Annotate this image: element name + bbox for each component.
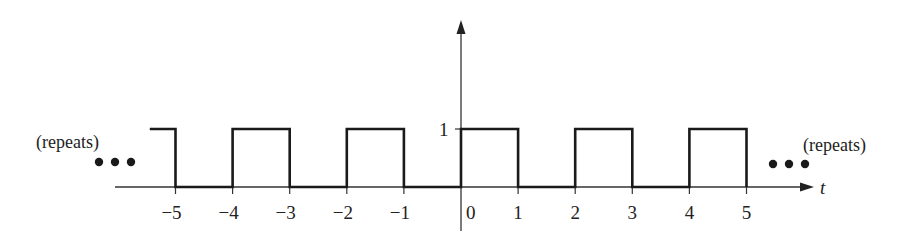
x-axis-label: t <box>820 177 826 198</box>
x-tick-label: −1 <box>390 202 410 223</box>
x-axis-tick-labels: −5−4−3−2−1012345 <box>161 202 751 223</box>
x-tick-label: 1 <box>513 202 523 223</box>
square-wave-figure: t 1 −5−4−3−2−1012345 (repeats) (repeats) <box>0 0 910 249</box>
ellipsis-dot-icon <box>127 158 135 166</box>
x-tick-label: −5 <box>161 202 181 223</box>
x-tick-label: −3 <box>276 202 296 223</box>
ellipsis-dot-icon <box>785 160 793 168</box>
ellipsis-dot-icon <box>95 158 103 166</box>
x-tick-label: −4 <box>218 202 239 223</box>
y-axis: 1 <box>439 20 466 231</box>
x-tick-label: −2 <box>333 202 353 223</box>
ellipsis-dot-icon <box>801 160 809 168</box>
left-repeats-annotation: (repeats) <box>36 132 135 166</box>
right-repeats-annotation: (repeats) <box>769 135 866 168</box>
ellipsis-dot-icon <box>769 160 777 168</box>
y-axis-arrow-icon <box>457 20 466 34</box>
x-tick-label: 0 <box>466 202 476 223</box>
left-repeats-label: (repeats) <box>36 132 99 153</box>
x-tick-label: 5 <box>742 202 752 223</box>
right-repeats-label: (repeats) <box>803 135 866 156</box>
ellipsis-dot-icon <box>111 158 119 166</box>
x-tick-label: 3 <box>628 202 638 223</box>
x-tick-label: 4 <box>685 202 695 223</box>
x-axis-arrow-icon <box>800 183 814 192</box>
y-tick-label-1: 1 <box>439 119 449 140</box>
x-tick-label: 2 <box>570 202 580 223</box>
